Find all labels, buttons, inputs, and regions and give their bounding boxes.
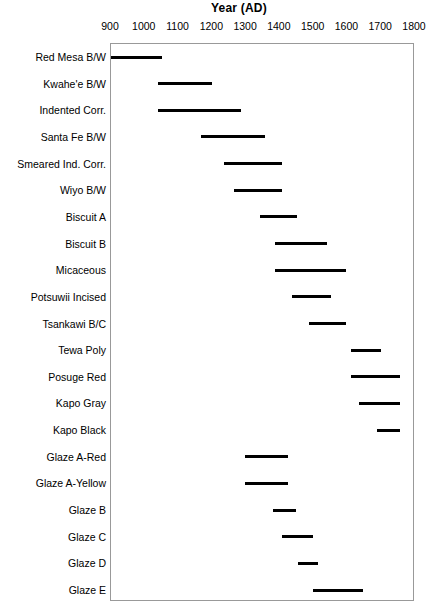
category-label: Glaze A-Yellow: [0, 477, 106, 489]
range-bar: [201, 135, 265, 138]
category-label: Glaze E: [0, 584, 106, 596]
range-bar: [273, 509, 296, 512]
range-bar: [313, 589, 363, 592]
range-bar: [158, 109, 241, 112]
range-bar: [224, 162, 281, 165]
range-bar: [309, 322, 346, 325]
ceramic-chronology-chart: Year (AD) 900100011001200130014001500160…: [0, 0, 426, 602]
range-bar: [234, 189, 281, 192]
chart-title: Year (AD): [26, 1, 426, 15]
range-bar: [260, 215, 297, 218]
category-label: Biscuit A: [0, 211, 106, 223]
category-labels: Red Mesa B/WKwahe'e B/WIndented Corr.San…: [0, 43, 106, 601]
category-label: Micaceous: [0, 264, 106, 276]
category-label: Kapo Gray: [0, 397, 106, 409]
category-label: Tsankawi B/C: [0, 318, 106, 330]
range-bar: [351, 375, 401, 378]
category-label: Biscuit B: [0, 238, 106, 250]
category-label: Glaze D: [0, 557, 106, 569]
category-label: Potsuwii Incised: [0, 291, 106, 303]
range-bar: [377, 429, 400, 432]
category-label: Indented Corr.: [0, 104, 106, 116]
category-label: Red Mesa B/W: [0, 51, 106, 63]
range-bar: [158, 82, 212, 85]
range-bar: [282, 535, 313, 538]
range-bar: [245, 455, 288, 458]
range-bar: [275, 242, 327, 245]
range-bar: [275, 269, 346, 272]
range-bar: [245, 482, 288, 485]
category-label: Glaze A-Red: [0, 451, 106, 463]
category-label: Santa Fe B/W: [0, 131, 106, 143]
category-label: Glaze B: [0, 504, 106, 516]
category-label: Smeared Ind. Corr.: [0, 158, 106, 170]
plot-area: [110, 43, 414, 601]
range-bar: [292, 295, 331, 298]
category-label: Kwahe'e B/W: [0, 78, 106, 90]
category-label: Tewa Poly: [0, 344, 106, 356]
category-label: Wiyo B/W: [0, 184, 106, 196]
range-bar: [111, 56, 162, 59]
range-bar: [359, 402, 400, 405]
category-label: Posuge Red: [0, 371, 106, 383]
x-axis-tick-labels: 900100011001200130014001500160017001800: [0, 20, 426, 34]
category-label: Glaze C: [0, 531, 106, 543]
range-bar: [351, 349, 381, 352]
category-label: Kapo Black: [0, 424, 106, 436]
x-tick-label: 1800: [394, 20, 426, 33]
range-bar: [298, 562, 318, 565]
